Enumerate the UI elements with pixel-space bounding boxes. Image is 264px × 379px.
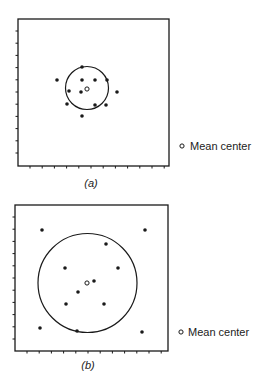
legend-mean-center-icon <box>179 330 183 334</box>
data-point <box>65 102 69 106</box>
data-point <box>75 329 79 333</box>
data-point <box>104 103 108 107</box>
panel-a: Mean center(a) <box>16 19 252 189</box>
data-point <box>80 65 84 69</box>
data-point <box>80 78 84 82</box>
data-point <box>93 103 97 107</box>
data-point <box>76 290 80 294</box>
data-point <box>93 78 97 82</box>
data-point <box>67 89 71 93</box>
data-point <box>63 266 67 270</box>
data-point <box>143 228 147 232</box>
panel-frame <box>18 19 169 166</box>
panel-label: (a) <box>84 177 98 189</box>
data-point <box>80 114 84 118</box>
panel-b: Mean center(b) <box>13 205 250 371</box>
legend-text: Mean center <box>190 140 251 152</box>
data-point <box>140 330 144 334</box>
mean-center-marker <box>85 281 89 285</box>
data-point <box>92 279 96 283</box>
legend-mean-center-icon <box>180 144 184 148</box>
data-point <box>104 242 108 246</box>
data-point <box>102 302 106 306</box>
data-point <box>105 78 109 82</box>
data-point <box>116 266 120 270</box>
mean-center-figure: Mean center(a) Mean center(b) <box>0 0 264 379</box>
data-point <box>64 302 68 306</box>
data-point <box>115 90 119 94</box>
data-point <box>55 78 59 82</box>
panel-label: (b) <box>81 359 95 371</box>
data-point <box>38 326 42 330</box>
mean-center-marker <box>85 87 89 91</box>
data-point <box>40 228 44 232</box>
data-point <box>79 90 83 94</box>
legend-text: Mean center <box>188 326 249 338</box>
